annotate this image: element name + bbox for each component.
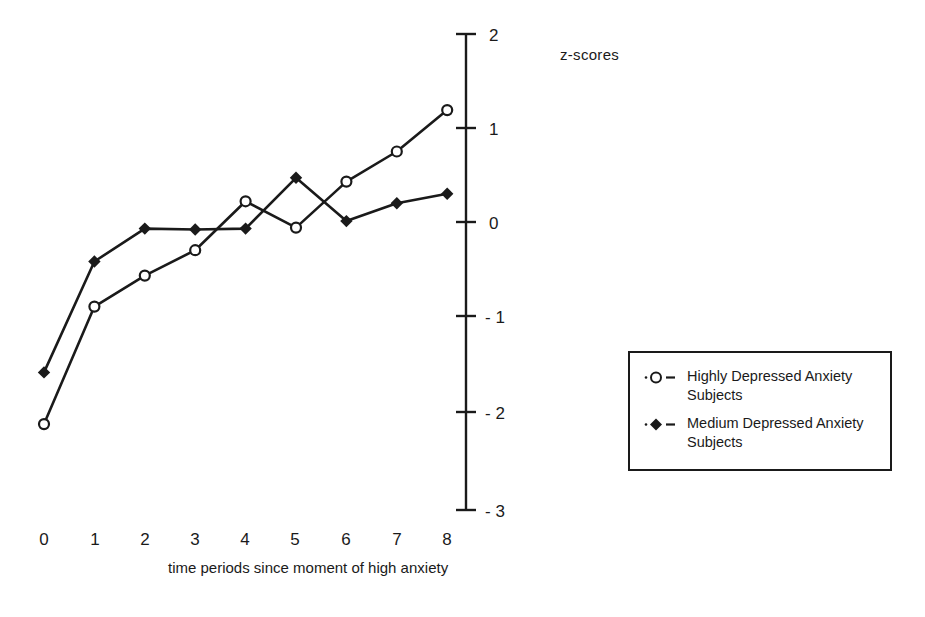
legend-item-highly-depressed: Highly Depressed Anxiety Subjects	[644, 367, 852, 405]
x-tick-label-1: 1	[90, 530, 99, 549]
filled-diamond-data-point	[189, 223, 201, 235]
legend-item-medium-depressed: Medium Depressed Anxiety Subjects	[644, 414, 864, 452]
series-layer	[38, 105, 454, 429]
x-tick-label-8: 8	[442, 530, 451, 549]
open-circle-data-point	[39, 419, 49, 429]
filled-diamond-data-point	[391, 197, 403, 209]
open-circle-data-point	[140, 271, 150, 281]
y-tick-label-2: 2	[489, 26, 498, 45]
series-highly-depressed	[39, 105, 452, 429]
open-circle-data-point	[89, 302, 99, 312]
y-tick-label-1: 1	[489, 120, 498, 139]
y-tick-label-neg3: - 3	[485, 502, 505, 521]
y-tick-label-neg2: - 2	[485, 404, 505, 423]
chart-legend: Highly Depressed Anxiety Subjects Medium…	[628, 351, 892, 471]
open-circle-data-point	[442, 105, 452, 115]
open-circle-data-point	[241, 196, 251, 206]
open-circle-marker-icon	[644, 368, 678, 387]
x-tick-label-5: 5	[290, 530, 299, 549]
x-tick-label-4: 4	[240, 530, 249, 549]
filled-diamond-data-point	[441, 188, 453, 200]
x-tick-label-2: 2	[140, 530, 149, 549]
filled-diamond-marker-icon	[644, 415, 678, 434]
open-circle-data-point	[291, 223, 301, 233]
open-circle-data-point	[341, 177, 351, 187]
legend-label-medium-depressed: Medium Depressed Anxiety Subjects	[687, 414, 864, 452]
x-axis: 0 1 2 3 4 5 6 7 8 time periods since mom…	[39, 530, 451, 576]
legend-label-highly-depressed: Highly Depressed Anxiety Subjects	[687, 367, 852, 405]
x-tick-label-3: 3	[190, 530, 199, 549]
open-circle-data-point	[392, 147, 402, 157]
y-axis: 2 1 0 - 1 - 2 - 3	[456, 26, 505, 521]
open-circle-data-point	[190, 245, 200, 255]
line-chart-plot: 2 1 0 - 1 - 2 - 3 0 1 2 3 4 5 6 7 8 time…	[0, 0, 925, 617]
y-axis-title: z-scores	[560, 46, 619, 63]
x-tick-label-6: 6	[341, 530, 350, 549]
x-tick-label-7: 7	[392, 530, 401, 549]
series-line	[44, 110, 447, 424]
x-axis-title: time periods since moment of high anxiet…	[168, 559, 449, 576]
x-tick-label-0: 0	[39, 530, 48, 549]
filled-diamond-data-point	[38, 366, 50, 378]
y-tick-label-neg1: - 1	[485, 308, 505, 327]
chart-figure: 2 1 0 - 1 - 2 - 3 0 1 2 3 4 5 6 7 8 time…	[0, 0, 925, 617]
y-tick-label-0: 0	[489, 214, 498, 233]
